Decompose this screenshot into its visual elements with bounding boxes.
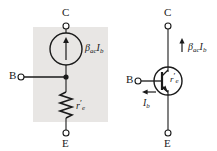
left-emitter-terminal <box>63 130 69 136</box>
left-base-label: B <box>9 70 16 81</box>
right-collector-current-label: βacIb <box>188 42 206 54</box>
left-collector-label: C <box>62 7 69 18</box>
right-resistor-label: r′e <box>170 72 179 85</box>
beta-subscript: ac <box>193 46 200 54</box>
resistor-subscript: e <box>82 104 85 112</box>
right-emitter-terminal <box>165 130 171 136</box>
right-base-terminal <box>135 78 141 84</box>
figure-canvas: C B E βacIb r′e C B E βacIb Ib r′e <box>0 0 217 151</box>
current-subscript: b <box>146 102 150 110</box>
left-current-source-label: βacIb <box>85 43 103 55</box>
current-subscript: b <box>100 47 104 55</box>
beta-subscript: ac <box>90 47 97 55</box>
right-emitter-label: E <box>164 138 171 149</box>
right-collector-terminal <box>165 23 171 29</box>
base-current-arrow-head <box>142 89 148 94</box>
left-emitter-label: E <box>62 138 69 149</box>
base-current-label: Ib <box>143 98 150 110</box>
right-base-label: B <box>126 74 133 85</box>
right-collector-current-arrow-head <box>179 38 184 44</box>
right-collector-label: C <box>164 7 171 18</box>
junction-dot <box>63 74 68 79</box>
left-resistor-label: r′e <box>76 99 85 112</box>
left-base-terminal <box>18 74 24 80</box>
current-subscript: b <box>203 46 207 54</box>
resistor-subscript: e <box>175 77 178 85</box>
left-collector-terminal <box>63 23 69 29</box>
circuit-drawing <box>0 0 217 151</box>
